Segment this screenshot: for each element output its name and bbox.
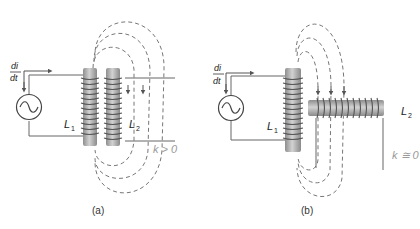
- current-arrow-icon: [24, 71, 50, 90]
- caption-b: (b): [301, 205, 313, 216]
- coil-l1-b: [283, 68, 303, 152]
- l2-label-b: L 2: [401, 105, 412, 119]
- coupling-label-b: k ≅ 0: [392, 149, 420, 161]
- panel-b: di dt L 1: [213, 24, 420, 216]
- svg-text:dt: dt: [10, 73, 18, 83]
- coupling-label-a: k > 0: [153, 143, 178, 155]
- svg-text:L: L: [267, 120, 273, 132]
- svg-text:1: 1: [71, 125, 75, 132]
- l1-label-b: L 1: [267, 120, 278, 134]
- coil-l2-a: [104, 68, 122, 146]
- svg-text:2: 2: [408, 112, 412, 119]
- ac-source-icon: [17, 95, 42, 120]
- svg-text:1: 1: [274, 127, 278, 134]
- di-dt-label-b: di dt: [213, 63, 224, 86]
- mutual-inductance-diagram: di dt: [0, 0, 420, 229]
- caption-a: (a): [92, 205, 104, 216]
- svg-text:L: L: [64, 118, 70, 130]
- svg-text:di: di: [11, 61, 19, 71]
- l2-label-a: L 2: [129, 118, 140, 132]
- svg-text:di: di: [214, 63, 222, 73]
- flux-lines-a: [93, 22, 164, 193]
- panel-a: di dt: [10, 22, 178, 216]
- di-dt-label-a: di dt: [10, 61, 21, 83]
- svg-text:L: L: [129, 118, 135, 130]
- svg-text:2: 2: [136, 125, 140, 132]
- coil-l1-a: [81, 68, 99, 146]
- ac-source-icon: [219, 96, 244, 121]
- coil-l2-b: [308, 98, 384, 118]
- svg-text:dt: dt: [213, 76, 221, 86]
- svg-text:L: L: [401, 105, 407, 117]
- l1-label-a: L 1: [64, 118, 75, 132]
